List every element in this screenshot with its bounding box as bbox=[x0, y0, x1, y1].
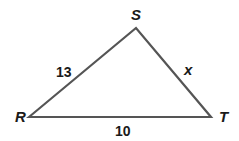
vertex-label-S: S bbox=[131, 6, 141, 23]
side-label-ST: x bbox=[183, 61, 193, 78]
side-label-RT: 10 bbox=[115, 123, 131, 139]
vertex-label-T: T bbox=[219, 108, 230, 125]
vertex-label-R: R bbox=[15, 108, 26, 125]
side-label-RS: 13 bbox=[56, 64, 72, 80]
triangle-diagram: R S T 13 x 10 bbox=[0, 0, 239, 141]
